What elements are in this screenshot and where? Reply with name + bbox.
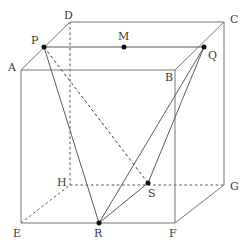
segment-RS <box>99 183 148 223</box>
point-label-f: F <box>169 228 177 239</box>
hidden-segments-group <box>44 47 148 183</box>
solid-edges-group <box>21 22 224 223</box>
cube-figure: ABCDEFGHPQMRS <box>0 0 249 249</box>
vertex-dot-r <box>97 221 102 226</box>
point-label-e: E <box>13 228 21 239</box>
edge-BC <box>175 22 224 70</box>
vertex-dot-q <box>202 45 207 50</box>
point-label-m: M <box>118 31 129 42</box>
point-label-b: B <box>165 72 173 83</box>
segment-PS <box>44 47 148 183</box>
vertex-dot-s <box>146 181 151 186</box>
edge-EH <box>21 185 70 223</box>
point-label-d: D <box>64 10 73 21</box>
point-label-p: P <box>31 35 38 46</box>
segment-QS <box>148 47 204 183</box>
vertex-dot-p <box>42 45 47 50</box>
point-label-h: H <box>57 177 67 188</box>
edge-FG <box>175 185 224 223</box>
point-label-a: A <box>8 62 16 73</box>
vertex-dot-m <box>122 45 127 50</box>
point-label-s: S <box>148 188 156 199</box>
segment-PR <box>44 47 99 223</box>
vertex-dots-group <box>42 45 207 226</box>
point-label-r: R <box>94 228 102 239</box>
point-label-q: Q <box>208 50 217 61</box>
point-label-c: C <box>230 14 238 25</box>
point-label-g: G <box>230 181 239 192</box>
solid-segments-group <box>44 47 204 223</box>
